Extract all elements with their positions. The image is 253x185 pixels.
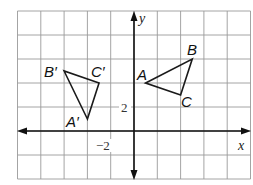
y-axis-up-arrow-icon: [131, 11, 138, 21]
vertex-label-c: C: [181, 93, 192, 110]
y-tick-label-2: 2: [121, 100, 128, 115]
y-axis-down-arrow-icon: [131, 170, 138, 180]
x-axis-label: x: [237, 138, 245, 153]
x-axis-right-arrow-icon: [241, 128, 251, 135]
x-axis-left-arrow-icon: [17, 128, 27, 135]
vertex-label-a-prime: A′: [65, 113, 80, 130]
x-tick-label-neg2: −2: [96, 138, 110, 153]
y-axis-label: y: [137, 11, 146, 26]
coordinate-plane: y x 2 −2 A B C A′ B′ C′: [0, 0, 253, 185]
triangle-abc: [146, 59, 193, 95]
vertex-label-b-prime: B′: [44, 63, 58, 80]
vertex-label-b: B: [187, 41, 197, 58]
vertex-labels: A B C A′ B′ C′: [44, 41, 197, 130]
vertex-label-c-prime: C′: [91, 63, 106, 80]
vertex-label-a: A: [136, 66, 147, 83]
